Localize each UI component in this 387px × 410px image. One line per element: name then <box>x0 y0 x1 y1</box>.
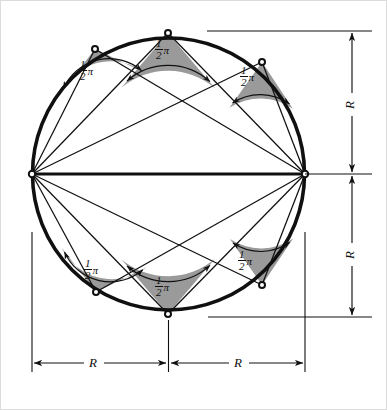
dimension-label-right-top: R <box>342 101 358 109</box>
vertex-dot-upper-middle <box>165 30 171 36</box>
vertex-dot-upper-right <box>259 59 265 65</box>
vertex-dot-lower-right <box>259 282 265 288</box>
vertex-dot-lower-middle <box>165 311 171 317</box>
vertex-dot-upper-left <box>92 46 98 52</box>
dimension-label-bottom-right: R <box>234 355 242 371</box>
dimension-label-bottom-left: R <box>89 355 97 371</box>
dimension-label-right-bottom: R <box>342 251 358 259</box>
geometry-figure: 1 2 π 1 2 π 1 2 π 1 2 π 1 2 π <box>0 0 387 410</box>
figure-canvas <box>0 0 387 410</box>
vertex-dot-lower-left <box>93 289 99 295</box>
vertex-dot-left-diameter-endpoint <box>29 171 35 177</box>
figure-border <box>1 1 387 410</box>
